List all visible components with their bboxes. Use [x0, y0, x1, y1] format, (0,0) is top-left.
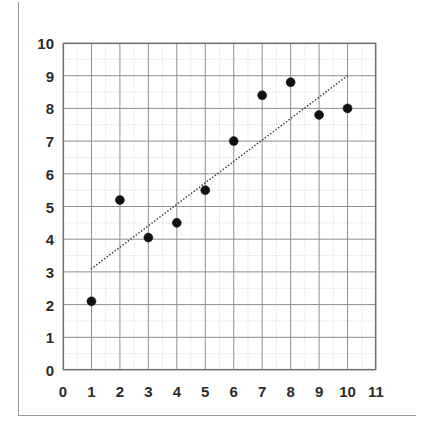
x-tick-label-9: 9: [315, 384, 323, 399]
x-tick-label-5: 5: [201, 384, 209, 399]
y-tick-label-1: 1: [22, 330, 54, 345]
x-tick-label-0: 0: [59, 384, 67, 399]
x-tick-label-11: 11: [368, 384, 384, 399]
y-tick-label-10: 10: [22, 36, 54, 51]
x-tick-label-7: 7: [258, 384, 266, 399]
x-tick-label-8: 8: [286, 384, 294, 399]
x-tick-label-6: 6: [230, 384, 238, 399]
y-tick-label-6: 6: [22, 166, 54, 181]
y-tick-label-2: 2: [22, 297, 54, 312]
scatter-plot-figure: 012345678910 01234567891011: [0, 0, 425, 424]
x-tick-label-10: 10: [339, 384, 356, 399]
plot-area: [63, 43, 376, 370]
y-tick-label-0: 0: [22, 363, 54, 378]
y-tick-label-7: 7: [22, 134, 54, 149]
x-tick-label-3: 3: [144, 384, 152, 399]
x-tick-label-1: 1: [87, 384, 95, 399]
data-point-markers: [63, 43, 376, 370]
y-tick-label-9: 9: [22, 68, 54, 83]
y-tick-label-5: 5: [22, 199, 54, 214]
y-tick-label-3: 3: [22, 264, 54, 279]
x-tick-label-2: 2: [116, 384, 124, 399]
y-tick-label-4: 4: [22, 232, 54, 247]
x-tick-label-4: 4: [173, 384, 181, 399]
y-tick-label-8: 8: [22, 101, 54, 116]
